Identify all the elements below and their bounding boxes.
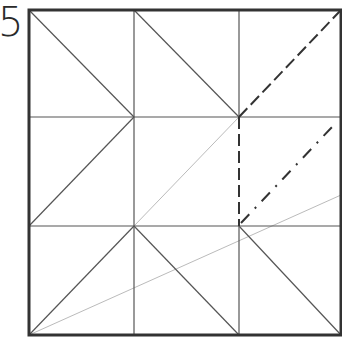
diagonal-crease: [29, 117, 134, 226]
mountain-fold: [241, 126, 333, 223]
diagonal-crease: [134, 10, 239, 117]
diagonal-crease: [29, 226, 134, 335]
diagonal-crease: [239, 226, 341, 335]
valley-fold-lines: [239, 10, 341, 226]
fold-diagram: [0, 0, 342, 342]
reference-line: [134, 117, 239, 226]
diagonal-crease: [29, 10, 134, 117]
reference-line: [29, 195, 341, 335]
mountain-fold-lines: [241, 126, 333, 223]
valley-fold: [239, 10, 341, 117]
